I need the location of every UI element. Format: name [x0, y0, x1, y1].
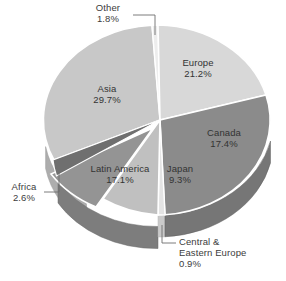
pie-slices-top	[43, 25, 270, 215]
pie-chart-graphic	[0, 0, 286, 281]
pie-chart: Other 1.8% Europe 21.2% Canada 17.4% Jap…	[0, 0, 286, 281]
slice-side-cee	[158, 215, 165, 237]
